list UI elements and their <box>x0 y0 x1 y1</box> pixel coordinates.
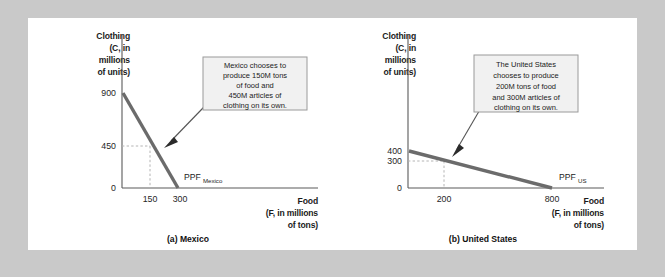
y-axis-title-line-1: Clothing <box>382 31 416 41</box>
ppf-label-mexico: PPF <box>184 172 201 182</box>
y-tick-400: 400 <box>387 146 402 156</box>
y-tick-0: 0 <box>111 183 116 193</box>
x-tick-800: 800 <box>545 194 560 204</box>
x-axis-title-line-1: Food <box>298 196 318 206</box>
chart-united-states: Clothing (C, in millions of units) 400 3… <box>333 18 637 250</box>
y-tick-450: 450 <box>101 141 116 151</box>
y-axis-title-line-2: (C, in <box>109 43 130 53</box>
x-axis-title-line-2: (F, in millions <box>552 208 605 218</box>
callout-line-3: of food and <box>236 81 274 90</box>
panel-mexico: Clothing (C, in millions of units) 900 4… <box>28 18 332 250</box>
ppf-label-subscript-mexico: Mexico <box>203 177 223 184</box>
x-tick-200: 200 <box>437 194 452 204</box>
ppf-label-us: PPF <box>559 172 576 182</box>
callout-line-4: 450M articles of <box>229 91 283 100</box>
y-axis-title-line-3: millions <box>99 55 131 65</box>
callout-line-1: The United States <box>496 60 556 69</box>
callout-pointer-arrowhead <box>164 137 178 148</box>
panel-united-states: Clothing (C, in millions of units) 400 3… <box>333 18 637 250</box>
chart-mexico: Clothing (C, in millions of units) 900 4… <box>28 18 332 250</box>
x-tick-300: 300 <box>173 194 188 204</box>
y-axis-title-line-3: millions <box>385 55 417 65</box>
y-axis-title-line-4: of units) <box>97 67 130 77</box>
x-tick-150: 150 <box>143 194 158 204</box>
y-axis-title-line-2: (C, in <box>395 43 416 53</box>
x-axis-title-line-1: Food <box>584 196 604 206</box>
y-tick-0: 0 <box>397 183 402 193</box>
ppf-label-subscript-us: US <box>578 177 586 184</box>
callout-line-1: Mexico chooses to <box>224 61 286 70</box>
figure-card: Clothing (C, in millions of units) 900 4… <box>28 18 637 250</box>
x-axis-title-line-3: of tons) <box>574 220 605 230</box>
x-axis-title-line-3: of tons) <box>288 220 319 230</box>
ppf-curve-us <box>409 151 552 188</box>
callout-line-2: chooses to produce <box>493 71 558 80</box>
y-tick-300: 300 <box>387 156 402 166</box>
y-tick-900: 900 <box>101 88 116 98</box>
panel-caption-mexico: (a) Mexico <box>167 234 209 244</box>
y-axis-title-line-1: Clothing <box>96 31 130 41</box>
callout-pointer-arrowhead <box>452 144 464 157</box>
y-axis-title-line-4: of units) <box>383 67 416 77</box>
callout-line-2: produce 150M tons <box>223 71 287 80</box>
callout-line-3: 200M tons of food <box>496 82 556 91</box>
x-axis-title-line-2: (F, in millions <box>266 208 319 218</box>
panel-caption-us: (b) United States <box>449 234 517 244</box>
figure-page: Clothing (C, in millions of units) 900 4… <box>0 0 665 277</box>
callout-line-4: and 300M articles of <box>492 93 560 102</box>
callout-line-5: clothing on its own. <box>494 103 558 112</box>
callout-line-5: clothing on its own. <box>223 101 287 110</box>
